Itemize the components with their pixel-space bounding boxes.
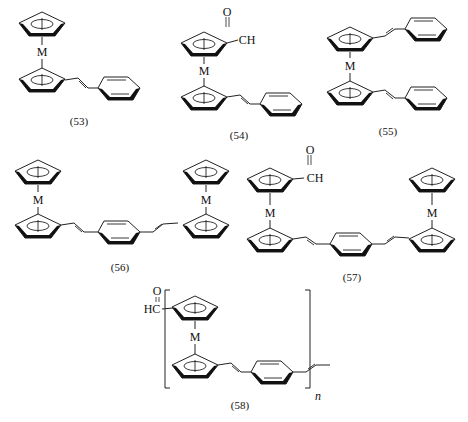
compound-label-57: (57) xyxy=(343,271,361,283)
metal-atom-58: M xyxy=(190,331,201,343)
compound-label-56: (56) xyxy=(111,261,129,273)
metal-atom-57-left: M xyxy=(265,207,276,219)
compound-56 xyxy=(15,160,229,244)
metal-atom-57-right: M xyxy=(427,207,438,219)
ch-group-54: CH xyxy=(239,34,256,46)
compound-58 xyxy=(156,290,330,388)
hc-group-58: HC xyxy=(144,303,161,315)
metal-atom-56-left: M xyxy=(33,194,44,206)
metal-atom-56-right: M xyxy=(201,194,212,206)
ch-group-57: CH xyxy=(307,172,324,184)
chemical-structures-diagram xyxy=(0,0,468,422)
metal-atom-55: M xyxy=(345,60,356,72)
oxygen-atom-58: O xyxy=(153,285,162,297)
compound-label-58: (58) xyxy=(231,399,249,411)
compound-57 xyxy=(247,155,455,256)
oxygen-atom-57: O xyxy=(306,144,315,156)
compound-label-54: (54) xyxy=(230,129,248,141)
compound-label-55: (55) xyxy=(379,125,397,137)
metal-atom-53: M xyxy=(37,46,48,58)
metal-atom-54: M xyxy=(199,65,210,77)
oxygen-atom-54: O xyxy=(223,6,232,18)
polymer-subscript-n: n xyxy=(315,389,321,404)
compound-label-53: (53) xyxy=(70,115,88,127)
